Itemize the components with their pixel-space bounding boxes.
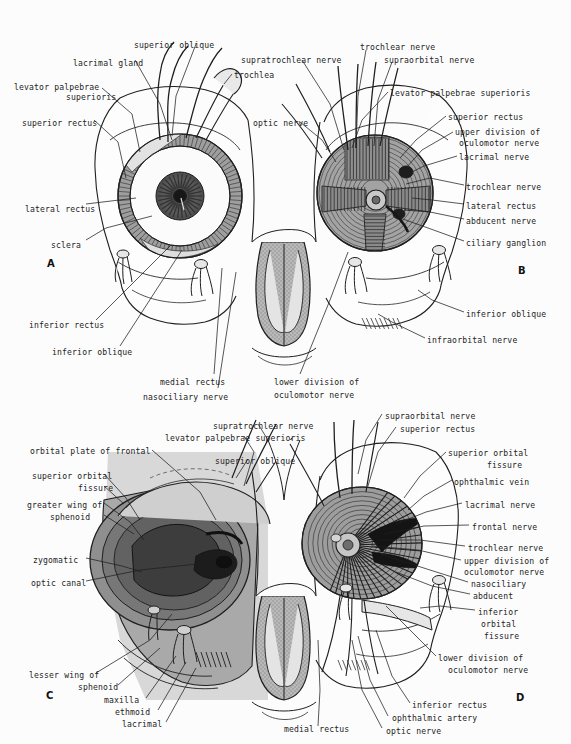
label-b-4: levator palpebrae superioris <box>390 88 531 98</box>
label-d-10: nasociliary <box>471 579 526 589</box>
label-c-2: superior oblique <box>215 456 295 466</box>
panel-letter-b: B <box>518 265 526 276</box>
label-d-4: ophthalmic vein <box>454 477 529 487</box>
label-c-14: lacrimal <box>122 719 162 729</box>
label-d-11: abducent <box>473 591 513 601</box>
label-a-6: lateral rectus <box>25 204 95 214</box>
label-b-7: oculomotor nerve <box>459 138 539 148</box>
label-b-14: infraorbital nerve <box>427 335 517 345</box>
label-d-15: lower division of <box>438 653 523 663</box>
label-d-3: fissure <box>487 460 522 470</box>
label-d-1: superior rectus <box>400 424 475 434</box>
label-d-8: upper division of <box>464 556 549 566</box>
label-a-7: sclera <box>51 240 81 250</box>
label-b-11: abducent nerve <box>466 216 536 226</box>
label-d-6: frontal nerve <box>472 522 537 532</box>
label-c-6: greater wing of <box>27 500 102 510</box>
label-d-17: inferior rectus <box>412 700 487 710</box>
label-d-14: fissure <box>484 631 519 641</box>
label-c-5: fissure <box>78 483 113 493</box>
panel-letter-d: D <box>516 692 524 703</box>
label-d-19: optic nerve <box>386 726 441 736</box>
label-c-8: zygomatic <box>33 555 78 565</box>
label-d-7: trochlear nerve <box>468 543 543 553</box>
label-a-10: medial rectus <box>160 377 225 387</box>
label-c-0: supratrochlear nerve <box>213 421 313 431</box>
label-b-16: oculomotor nerve <box>274 390 354 400</box>
label-c-11: sphenoid <box>78 682 118 692</box>
label-a-0: superior oblique <box>134 40 214 50</box>
figure-canvas: superior obliquelacrimal glandtrochleale… <box>0 0 571 744</box>
label-b-15: lower division of <box>274 377 359 387</box>
label-a-3: levator palpebrae <box>14 82 99 92</box>
label-a-8: inferior rectus <box>29 320 104 330</box>
label-a-1: lacrimal gland <box>73 58 143 68</box>
label-c-10: lesser wing of <box>29 670 99 680</box>
label-d-9: oculomotor nerve <box>464 567 544 577</box>
label-b-3: optic nerve <box>253 118 308 128</box>
label-a-2: trochlea <box>234 70 274 80</box>
label-c-3: orbital plate of frontal <box>30 446 151 456</box>
label-d-12: inferior <box>478 607 518 617</box>
label-b-6: upper division of <box>455 127 540 137</box>
label-a-9: inferior oblique <box>52 347 132 357</box>
label-b-8: lacrimal nerve <box>459 152 529 162</box>
label-c-7: sphenoid <box>50 512 90 522</box>
label-b-1: trochlear nerve <box>360 42 435 52</box>
label-d-13: orbital <box>481 619 516 629</box>
label-c-15: medial rectus <box>284 724 349 734</box>
label-d-5: lacrimal nerve <box>465 500 535 510</box>
label-b-0: supratrochlear nerve <box>241 55 341 65</box>
label-a-11: nasociliary nerve <box>143 392 228 402</box>
label-d-0: supraorbital nerve <box>385 411 475 421</box>
label-b-2: supraorbital nerve <box>384 55 474 65</box>
label-c-9: optic canal <box>31 578 86 588</box>
label-d-2: superior orbital <box>448 448 528 458</box>
label-c-4: superior orbital <box>32 471 112 481</box>
label-b-9: trochlear nerve <box>466 182 541 192</box>
label-c-1: levator palpebrae superioris <box>165 433 306 443</box>
label-b-12: ciliary ganglion <box>466 238 546 248</box>
label-b-13: inferior oblique <box>466 309 546 319</box>
label-a-5: superior rectus <box>22 118 97 128</box>
label-b-5: superior rectus <box>448 112 523 122</box>
label-c-13: ethmoid <box>115 707 150 717</box>
label-d-18: ophthalmic artery <box>392 713 477 723</box>
panel-letter-c: C <box>46 690 53 701</box>
label-a-4: superioris <box>66 92 116 102</box>
label-b-10: lateral rectus <box>466 201 536 211</box>
label-c-12: maxilla <box>104 695 139 705</box>
panel-letter-a: A <box>47 258 55 269</box>
label-d-16: oculomotor nerve <box>448 665 528 675</box>
